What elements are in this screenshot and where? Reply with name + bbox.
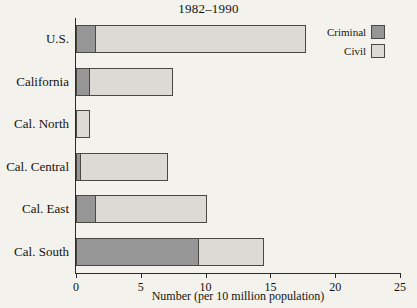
category-label: Cal. South	[14, 244, 69, 260]
x-tick-mark	[76, 273, 77, 278]
bar-row: California	[76, 68, 400, 96]
x-axis-line	[75, 273, 401, 274]
category-label: Cal. East	[22, 201, 69, 217]
x-tick-mark	[400, 273, 401, 278]
y-axis-line	[75, 18, 76, 273]
bar-segment-civil	[80, 153, 168, 181]
bar-segment-civil	[95, 25, 306, 53]
chart-title: 1982–1990	[0, 1, 417, 17]
x-tick-mark	[335, 273, 336, 278]
bar-row: Cal. East	[76, 195, 400, 223]
legend-item: Criminal	[327, 24, 385, 40]
chart-legend: CriminalCivil	[327, 24, 385, 62]
category-label: Cal. North	[14, 116, 69, 132]
bar-segment-civil	[76, 110, 90, 138]
bar-row: Cal. North	[76, 110, 400, 138]
bar-segment-civil	[95, 195, 206, 223]
x-tick-mark	[141, 273, 142, 278]
bar-row: Cal. Central	[76, 153, 400, 181]
category-label: U.S.	[46, 31, 69, 47]
bar-segment-criminal	[76, 238, 199, 266]
x-tick-mark	[270, 273, 271, 278]
legend-swatch	[371, 44, 385, 58]
category-label: California	[16, 74, 69, 90]
category-label: Cal. Central	[6, 159, 69, 175]
legend-swatch	[371, 25, 385, 39]
x-tick-mark	[206, 273, 207, 278]
bar-segment-criminal	[76, 195, 96, 223]
legend-label: Civil	[344, 45, 366, 57]
bar-segment-criminal	[76, 68, 90, 96]
bar-segment-criminal	[76, 25, 96, 53]
bar-segment-civil	[198, 238, 264, 266]
legend-item: Civil	[327, 43, 385, 59]
legend-label: Criminal	[327, 26, 366, 38]
bar-row: Cal. South	[76, 238, 400, 266]
x-axis-title: Number (per 10 million population)	[76, 289, 400, 304]
chart-figure: 1982–1990 0510152025 U.S.CaliforniaCal. …	[0, 0, 417, 308]
bar-segment-civil	[89, 68, 173, 96]
